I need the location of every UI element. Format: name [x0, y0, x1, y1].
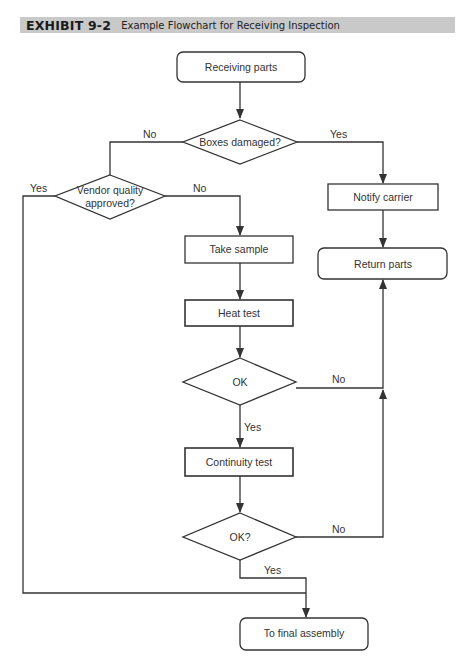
edge-label-ok1-yes: Yes: [244, 421, 261, 433]
return-parts-label: Return parts: [354, 258, 412, 270]
edge-label-boxes-no: No: [143, 128, 157, 140]
edge-ok2-no: [296, 390, 383, 537]
ok1-label: OK: [232, 376, 247, 388]
edge-boxes-yes: [297, 142, 383, 183]
edge-label-boxes-yes: Yes: [330, 128, 347, 140]
edge-vendor-no: [165, 196, 240, 235]
receiving-parts-label: Receiving parts: [205, 61, 277, 73]
edge-ok1-no: [296, 280, 383, 388]
continuity-test-label: Continuity test: [206, 456, 273, 468]
edge-vendor-yes: [23, 196, 306, 593]
ok2-label: OK?: [229, 531, 250, 543]
edge-label-vendor-no: No: [193, 182, 207, 194]
edge-label-vendor-yes: Yes: [30, 182, 47, 194]
final-assembly-label: To final assembly: [264, 627, 345, 639]
edge-boxes-no: [110, 142, 183, 175]
vendor-quality-label-1: Vendor quality: [77, 184, 144, 196]
edge-label-ok2-yes: Yes: [264, 564, 281, 576]
edge-label-ok1-no: No: [332, 373, 346, 385]
boxes-damaged-label: Boxes damaged?: [199, 136, 281, 148]
flowchart: Receiving parts Boxes damaged? Vendor qu…: [0, 0, 468, 666]
take-sample-label: Take sample: [210, 243, 269, 255]
vendor-quality-label-2: approved?: [85, 197, 135, 209]
heat-test-label: Heat test: [218, 307, 260, 319]
notify-carrier-label: Notify carrier: [353, 191, 413, 203]
edge-label-ok2-no: No: [332, 523, 346, 535]
